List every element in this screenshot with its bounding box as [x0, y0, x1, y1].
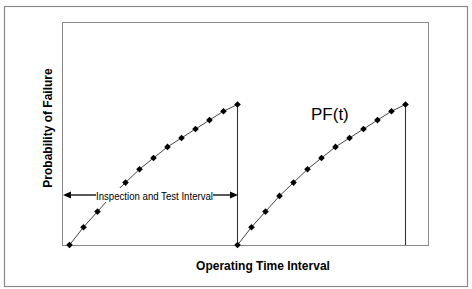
curve-label: PF(t): [311, 105, 349, 124]
chart: Inspection and Test Interval PF(t) Opera…: [0, 0, 472, 289]
y-axis-label: Probability of Failure: [41, 68, 55, 188]
interval-label: Inspection and Test Interval: [96, 190, 213, 202]
x-axis-label: Operating Time Interval: [196, 259, 330, 273]
chart-canvas: Inspection and Test Interval PF(t) Opera…: [0, 0, 472, 289]
plot-area: [63, 23, 429, 246]
